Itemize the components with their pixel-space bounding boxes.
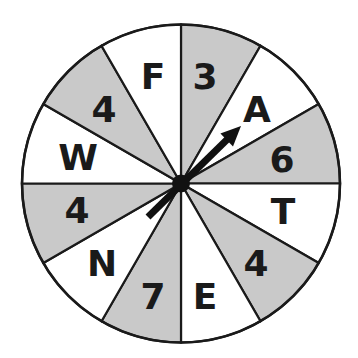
sector-label: 3 xyxy=(192,56,217,97)
sector-label: 4 xyxy=(64,190,89,231)
sector-label: T xyxy=(271,191,296,232)
sector-label: N xyxy=(87,243,117,284)
sector-label: F xyxy=(141,56,166,97)
spinner: 3A6T4E7N4W4F xyxy=(0,0,358,358)
sector-label: E xyxy=(193,276,218,317)
sector-label: A xyxy=(243,89,271,130)
sector-label: 7 xyxy=(140,276,165,317)
spinner-wheel: 3A6T4E7N4W4F xyxy=(0,0,358,358)
center-hub xyxy=(172,175,190,193)
sector-label: 6 xyxy=(269,139,294,180)
sector-label: 4 xyxy=(243,243,268,284)
sector-label: W xyxy=(58,137,98,178)
sector-label: 4 xyxy=(91,89,116,130)
